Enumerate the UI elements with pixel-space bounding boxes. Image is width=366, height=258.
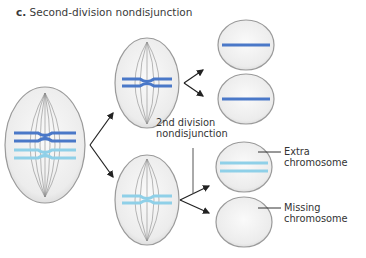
arrow-to-bottom-cell — [90, 145, 113, 177]
extra-chromosome-label: Extra chromosome — [284, 146, 348, 168]
parent-cell — [5, 87, 85, 203]
top-meiosis-ii-cell — [115, 38, 179, 128]
arrow-to-top-cell — [90, 113, 113, 145]
arrow-to-gamete-1 — [184, 70, 203, 83]
nondisjunction-label: 2nd division nondisjunction — [156, 117, 228, 139]
arrow-to-gamete-3 — [180, 186, 209, 200]
gamete-missing-chromosome — [216, 197, 272, 247]
arrow-to-gamete-2 — [184, 83, 203, 96]
arrow-to-gamete-4 — [180, 200, 209, 213]
missing-chromosome-label: Missing chromosome — [284, 202, 348, 224]
bottom-meiosis-ii-cell — [115, 155, 179, 245]
gamete-extra-chromosome — [216, 142, 272, 192]
gamete-normal-1 — [218, 20, 274, 70]
